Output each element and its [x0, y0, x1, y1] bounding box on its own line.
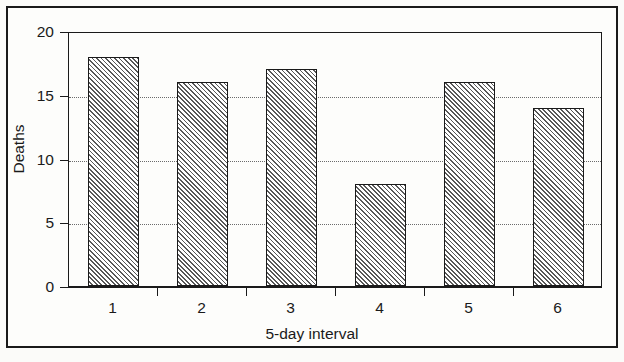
y-axis-title: Deaths [10, 104, 28, 194]
bar-6 [533, 108, 583, 287]
x-tick-boundary-1 [157, 287, 158, 296]
bar-1 [88, 57, 138, 287]
bar-4 [355, 184, 405, 286]
y-tick-5 [60, 223, 69, 224]
x-tick-label-3: 3 [261, 300, 321, 316]
bar-5 [444, 82, 494, 286]
y-tick-label-15: 15 [14, 88, 54, 104]
chart-page: 05101520 Deaths 123456 5-day interval [0, 0, 624, 362]
y-tick-label-0: 0 [14, 279, 54, 295]
bar-3 [266, 69, 316, 286]
y-tick-10 [60, 160, 69, 161]
bars-group [69, 33, 601, 286]
x-tick-boundary-3 [335, 287, 336, 296]
bar-2 [177, 82, 227, 286]
y-tick-label-5: 5 [14, 215, 54, 231]
x-tick-label-1: 1 [83, 300, 143, 316]
x-tick-boundary-4 [424, 287, 425, 296]
x-tick-label-4: 4 [350, 300, 410, 316]
y-tick-label-20: 20 [14, 24, 54, 40]
x-tick-label-2: 2 [172, 300, 232, 316]
x-axis-title: 5-day interval [0, 325, 624, 343]
bar-chart-figure: 05101520 Deaths 123456 5-day interval [0, 0, 624, 362]
y-tick-15 [60, 96, 69, 97]
x-tick-label-6: 6 [528, 300, 588, 316]
x-tick-boundary-2 [246, 287, 247, 296]
x-tick-label-5: 5 [439, 300, 499, 316]
y-tick-20 [60, 32, 69, 33]
x-tick-boundary-5 [513, 287, 514, 296]
plot-area [68, 32, 602, 287]
